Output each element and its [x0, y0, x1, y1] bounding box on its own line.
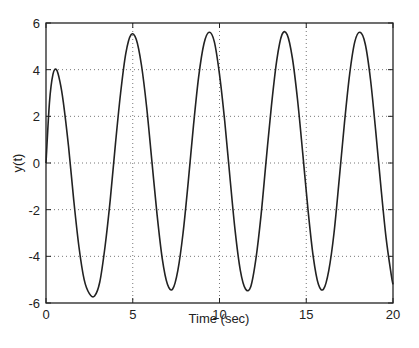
x-tick-label: 20 [386, 307, 400, 322]
y-tick-label: -2 [28, 203, 40, 218]
y-tick-label: -4 [28, 249, 40, 264]
y-tick-label: 0 [33, 156, 40, 171]
x-axis-label: Time (sec) [189, 311, 250, 326]
y-tick-label: 6 [33, 16, 40, 31]
x-tick-label: 5 [129, 307, 136, 322]
y-tick-label: 2 [33, 109, 40, 124]
series-line [46, 32, 393, 297]
y-tick-label: -6 [28, 296, 40, 311]
x-tick-label: 15 [299, 307, 313, 322]
line-chart: 05101520 -6-4-20246 Time (sec) y(t) [0, 0, 419, 348]
x-tick-label: 0 [42, 307, 49, 322]
data-series [46, 32, 393, 297]
y-tick-label: 4 [33, 63, 40, 78]
y-tick-labels: -6-4-20246 [28, 16, 40, 311]
y-axis-label: y(t) [10, 154, 25, 173]
